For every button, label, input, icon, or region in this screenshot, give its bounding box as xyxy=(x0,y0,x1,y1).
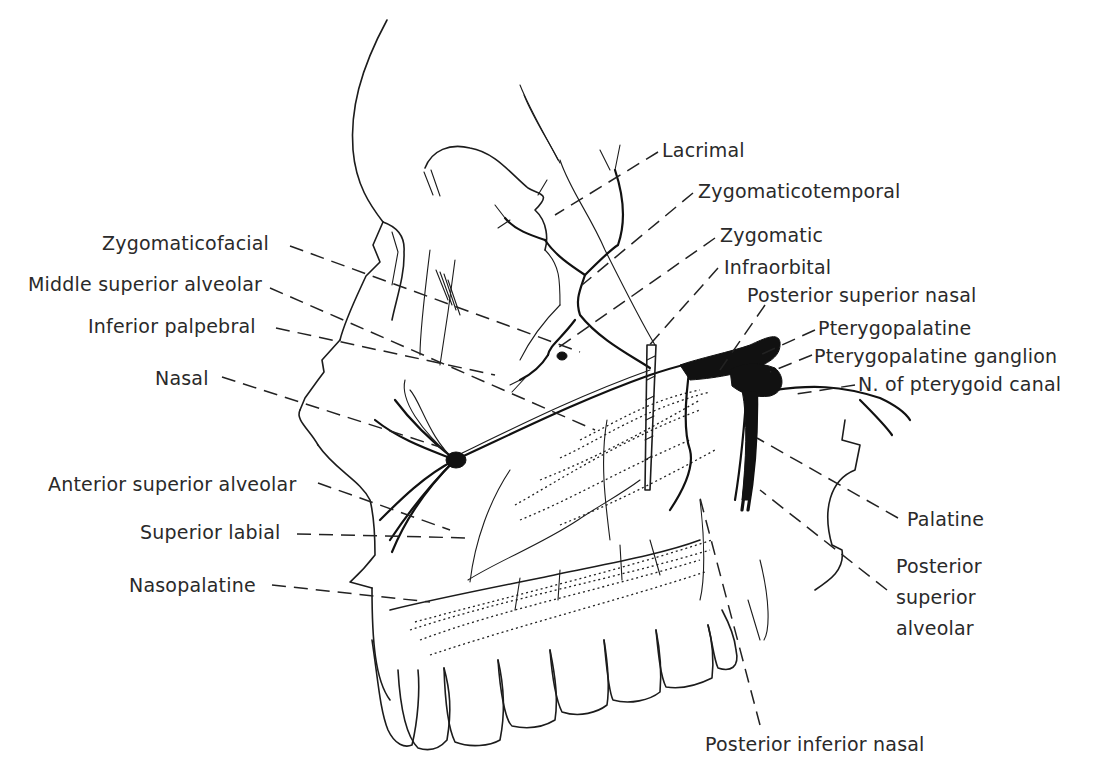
label-palatine: Palatine xyxy=(907,508,984,530)
label-infraorbital: Infraorbital xyxy=(724,256,831,278)
label-zygomaticotemporal: Zygomaticotemporal xyxy=(698,180,901,202)
label-posterior-superior-alveolar-line3: alveolar xyxy=(896,617,974,639)
label-middle-superior-alveolar: Middle superior alveolar xyxy=(28,273,262,295)
label-lacrimal: Lacrimal xyxy=(662,139,745,161)
label-nasal: Nasal xyxy=(155,367,209,389)
label-zygomaticofacial: Zygomaticofacial xyxy=(102,232,269,254)
label-posterior-superior-alveolar-line1: Posterior xyxy=(896,555,982,577)
label-zygomatic: Zygomatic xyxy=(720,224,823,246)
label-posterior-superior-alveolar-line2: superior xyxy=(896,586,976,608)
label-pterygopalatine-ganglion: Pterygopalatine ganglion xyxy=(814,345,1057,367)
label-anterior-superior-alveolar: Anterior superior alveolar xyxy=(48,473,296,495)
label-pterygopalatine: Pterygopalatine xyxy=(818,317,971,339)
teeth-row xyxy=(372,610,737,750)
bone-outline xyxy=(299,20,655,700)
label-posterior-superior-nasal: Posterior superior nasal xyxy=(747,284,977,306)
label-n-of-pterygoid-canal: N. of pterygoid canal xyxy=(858,373,1061,395)
pterygoid-plate xyxy=(700,420,860,640)
pterygopalatine-ganglion-shape xyxy=(446,337,782,500)
label-nasopalatine: Nasopalatine xyxy=(129,574,256,596)
label-superior-labial: Superior labial xyxy=(140,521,281,543)
alveolar-ridge xyxy=(390,420,700,610)
label-inferior-palpebral: Inferior palpebral xyxy=(88,315,256,337)
anatomy-figure: Zygomaticofacial Middle superior alveola… xyxy=(0,0,1104,765)
dental-plexus-dotted xyxy=(410,390,715,655)
label-posterior-inferior-nasal: Posterior inferior nasal xyxy=(705,733,925,755)
